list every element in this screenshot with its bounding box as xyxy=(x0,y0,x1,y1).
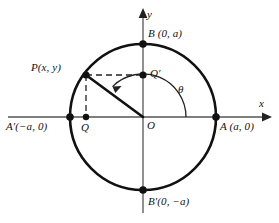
point-label-b: B (0, a) xyxy=(148,28,182,39)
circle-diagram-figure: x y O P(x, y) Q Q′ A (a, 0) A′(−a, 0) B … xyxy=(0,0,279,223)
origin-label: O xyxy=(147,120,155,131)
point-label-a: A (a, 0) xyxy=(220,121,254,132)
point-dot-p xyxy=(82,71,89,78)
point-label-p: P(x, y) xyxy=(31,62,61,73)
angle-label-theta: θ xyxy=(178,84,184,95)
point-dot-q xyxy=(83,114,89,120)
angle-arc-theta xyxy=(113,74,187,117)
x-axis-label: x xyxy=(259,98,264,109)
point-dot-b xyxy=(139,40,147,48)
point-label-q: Q xyxy=(81,122,89,133)
point-dot-aprime xyxy=(66,113,74,121)
point-dot-qprime xyxy=(139,71,146,78)
radius-segment-op xyxy=(86,75,143,117)
diagram-canvas xyxy=(0,0,279,223)
y-axis-label: y xyxy=(147,9,152,20)
point-label-bprime: B′(0, −a) xyxy=(148,196,189,207)
point-dot-a xyxy=(212,113,220,121)
point-dot-bprime xyxy=(139,186,147,194)
point-label-qprime: Q′ xyxy=(150,68,161,79)
point-label-aprime: A′(−a, 0) xyxy=(6,121,47,132)
angle-arc-arrowhead xyxy=(113,86,122,93)
x-axis-arrowhead xyxy=(262,113,272,122)
